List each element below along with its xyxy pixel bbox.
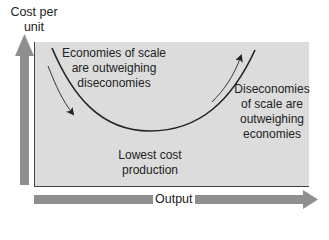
diseconomies-annotation: Diseconomies of scale are outweighing ec… (232, 82, 312, 142)
lowest-cost-annotation: Lowest cost production (110, 148, 190, 178)
y-axis-arrow-icon (15, 34, 34, 185)
x-axis-label: Output (153, 191, 195, 207)
economies-annotation: Economies of scale are outweighing disec… (54, 46, 174, 91)
